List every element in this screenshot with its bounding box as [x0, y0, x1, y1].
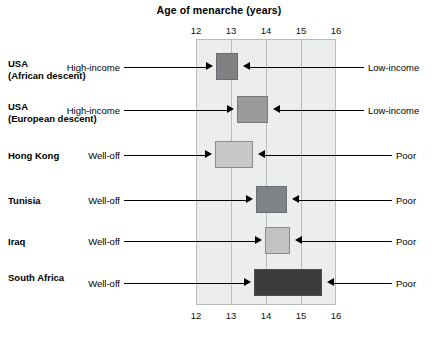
- x-tick-bottom-14: 14: [254, 310, 278, 321]
- right-arrow-line-5: [302, 241, 392, 242]
- x-tick-bottom-15: 15: [289, 310, 313, 321]
- left-tag-tunisia: Well-off: [76, 195, 120, 206]
- x-tick-top-12: 12: [184, 25, 208, 36]
- bar-iraq: [265, 227, 290, 254]
- right-arrow-head-2: [273, 105, 280, 113]
- chart-title: Age of menarche (years): [0, 4, 438, 16]
- left-tag-south-africa: Well-off: [76, 278, 120, 289]
- right-arrow-line-4: [299, 200, 392, 201]
- right-tag-tunisia: Poor: [396, 195, 416, 206]
- right-tag-iraq: Poor: [396, 236, 416, 247]
- row-label-hong-kong: Hong Kong: [8, 150, 59, 162]
- x-tick-bottom-12: 12: [184, 310, 208, 321]
- right-arrow-line-2: [280, 110, 364, 111]
- left-arrow-head-2: [227, 105, 234, 113]
- x-tick-bottom-16: 16: [324, 310, 348, 321]
- bar-usa-african: [216, 53, 238, 80]
- left-tag-usa-african: High-income: [58, 62, 120, 73]
- right-arrow-head-5: [295, 236, 302, 244]
- left-tag-hong-kong: Well-off: [76, 150, 120, 161]
- right-arrow-line-1: [250, 67, 364, 68]
- left-arrow-line-5: [124, 241, 255, 242]
- bar-usa-european: [237, 96, 268, 123]
- left-arrow-line-4: [124, 200, 246, 201]
- left-arrow-head-4: [246, 195, 253, 203]
- right-arrow-head-3: [258, 150, 265, 158]
- x-tick-bottom-13: 13: [219, 310, 243, 321]
- left-tag-usa-european: High-income: [58, 105, 120, 116]
- left-arrow-head-3: [205, 150, 212, 158]
- x-tick-top-16: 16: [324, 25, 348, 36]
- left-arrow-head-6: [244, 278, 251, 286]
- x-tick-top-14: 14: [254, 25, 278, 36]
- right-tag-usa-european: Low-income: [368, 105, 419, 116]
- row-label-south-africa: South Africa: [8, 272, 64, 284]
- left-tag-iraq: Well-off: [76, 236, 120, 247]
- right-tag-usa-african: Low-income: [368, 62, 419, 73]
- row-label-iraq: Iraq: [8, 236, 25, 248]
- right-arrow-line-6: [334, 283, 392, 284]
- x-tick-top-15: 15: [289, 25, 313, 36]
- left-arrow-line-3: [124, 155, 205, 156]
- bar-tunisia: [256, 186, 287, 213]
- gridline-15: [301, 40, 302, 304]
- left-arrow-head-5: [255, 236, 262, 244]
- bar-south-africa: [254, 269, 322, 296]
- left-arrow-line-2: [124, 110, 227, 111]
- right-arrow-head-6: [327, 278, 334, 286]
- chart-root: Age of menarche (years) 12 13 14 15 16 1…: [0, 0, 438, 348]
- bar-hong-kong: [215, 141, 253, 168]
- x-tick-top-13: 13: [219, 25, 243, 36]
- right-tag-south-africa: Poor: [396, 278, 416, 289]
- left-arrow-line-1: [124, 67, 206, 68]
- right-arrow-line-3: [265, 155, 392, 156]
- right-arrow-head-1: [243, 62, 250, 70]
- right-tag-hong-kong: Poor: [396, 150, 416, 161]
- right-arrow-head-4: [292, 195, 299, 203]
- row-label-tunisia: Tunisia: [8, 195, 41, 207]
- left-arrow-line-6: [124, 283, 244, 284]
- gridline-14: [266, 40, 267, 304]
- left-arrow-head-1: [206, 62, 213, 70]
